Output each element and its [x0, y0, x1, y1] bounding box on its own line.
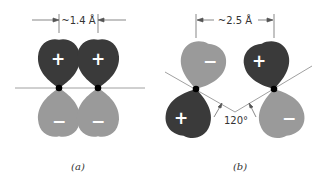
svg-text:+: +: [174, 108, 188, 128]
orbital-diagram: ~1.4 Å + + − − (a): [0, 0, 331, 183]
svg-text:+: +: [252, 51, 266, 71]
caption-b: (b): [233, 161, 247, 172]
lobe-lower-left-a: −: [38, 88, 80, 137]
svg-text:−: −: [282, 108, 296, 128]
panel-a: ~1.4 Å + + − − (a): [15, 14, 145, 172]
svg-text:−: −: [203, 51, 217, 71]
caption-a: (a): [71, 161, 85, 172]
angle-label-b: 120°: [224, 115, 248, 126]
lobe-lower-right-a: −: [77, 88, 119, 137]
atom-right-a: [95, 85, 102, 92]
svg-text:+: +: [91, 49, 105, 69]
distance-label-a: ~1.4 Å: [61, 14, 95, 26]
lobe-lower-left-b: +: [161, 83, 218, 142]
svg-text:+: +: [51, 49, 65, 69]
atom-left-a: [56, 85, 63, 92]
atom-left-b: [193, 86, 200, 93]
lobe-lower-right-b: −: [252, 83, 309, 142]
lobe-upper-left-a: +: [38, 39, 80, 88]
lobe-upper-right-b: +: [240, 37, 296, 95]
lobe-upper-right-a: +: [77, 39, 119, 88]
panel-b: ~2.5 Å − + + −: [161, 14, 312, 172]
svg-text:−: −: [91, 111, 105, 131]
lobe-upper-left-b: −: [174, 37, 230, 95]
distance-label-b: ~2.5 Å: [218, 14, 252, 26]
atom-right-b: [271, 86, 278, 93]
svg-text:−: −: [52, 111, 66, 131]
